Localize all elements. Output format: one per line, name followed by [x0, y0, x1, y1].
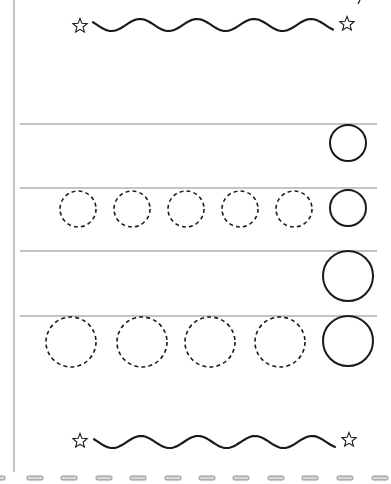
- cut-line-dash: [372, 476, 388, 480]
- cut-line-dash: [96, 476, 112, 480]
- cut-line-dash: [61, 476, 77, 480]
- page-background: [0, 0, 391, 484]
- cut-line-dash: [268, 476, 284, 480]
- cut-line-dash: [199, 476, 215, 480]
- cut-line-dash: [130, 476, 146, 480]
- cut-line-dash: [0, 476, 5, 480]
- cut-line-dash: [337, 476, 353, 480]
- cut-line-dash: [302, 476, 318, 480]
- tracing-worksheet: [0, 0, 391, 484]
- cut-line-dash: [233, 476, 249, 480]
- cut-line-dash: [165, 476, 181, 480]
- cut-line-dash: [27, 476, 43, 480]
